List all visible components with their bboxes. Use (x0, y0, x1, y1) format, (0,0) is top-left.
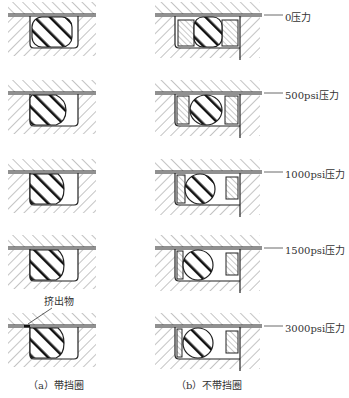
caption-b: （b）不带挡圈 (176, 377, 242, 392)
extrusion-annotation: 挤出物 (44, 293, 74, 308)
pressure-label-1000: 1000psi压力 (285, 166, 345, 181)
row-1500psi (8, 235, 283, 293)
pressure-label-0: 0压力 (285, 9, 311, 24)
row-3000psi (8, 313, 283, 371)
row-1000psi (8, 159, 283, 217)
row-0psi (8, 2, 283, 60)
pressure-label-500: 500psi压力 (285, 87, 339, 102)
caption-a: （a）带挡圈 (28, 377, 84, 392)
pressure-label-1500: 1500psi压力 (285, 242, 345, 257)
diagram-canvas (0, 0, 349, 398)
row-500psi (8, 80, 283, 138)
pressure-label-3000: 3000psi压力 (285, 320, 345, 335)
